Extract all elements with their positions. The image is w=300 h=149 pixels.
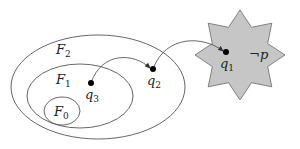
state-dot-q3	[88, 80, 94, 86]
region-label-f2: F2	[55, 42, 71, 59]
region-f1-ellipse	[27, 64, 133, 128]
region-label-f0: F0	[53, 104, 69, 121]
transition-arrow-q3-to-q2	[91, 58, 150, 83]
region-label-f1: F1	[55, 72, 71, 89]
state-dot-q1	[223, 49, 229, 55]
goal-star-region	[195, 10, 285, 100]
state-label-q2: q2	[147, 73, 161, 90]
state-dot-q2	[150, 66, 156, 72]
state-label-q3: q3	[85, 87, 99, 104]
goal-label-not-p: ¬p	[249, 47, 269, 62]
nested-regions-diagram: F2 F1 F0 q3 q2 q1 ¬p	[0, 0, 300, 149]
